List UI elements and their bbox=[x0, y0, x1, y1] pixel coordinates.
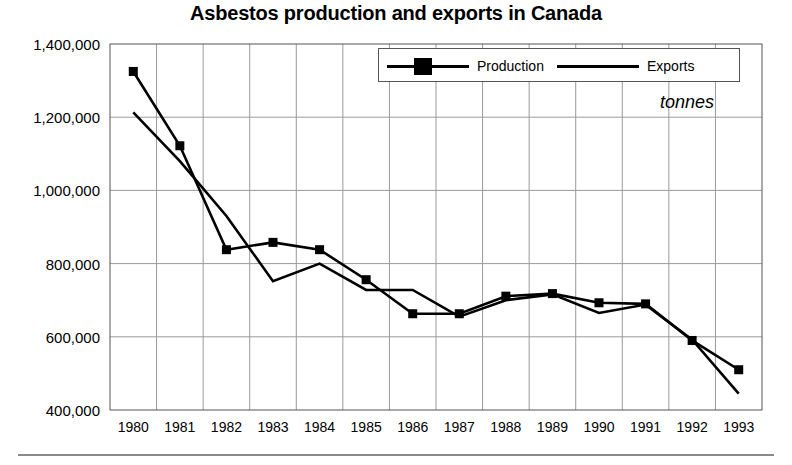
data-point-marker bbox=[734, 365, 743, 374]
data-point-marker bbox=[269, 238, 278, 247]
data-point-marker bbox=[595, 298, 604, 307]
unit-annotation: tonnes bbox=[660, 92, 714, 113]
legend-marker-production-icon bbox=[387, 56, 469, 76]
data-point-marker bbox=[175, 141, 184, 150]
chart-container: Asbestos production and exports in Canad… bbox=[0, 0, 792, 465]
legend-label-exports: Exports bbox=[647, 58, 694, 74]
legend-marker-exports-icon bbox=[557, 56, 639, 76]
data-point-marker bbox=[129, 67, 138, 76]
data-point-marker bbox=[362, 275, 371, 284]
data-point-marker bbox=[408, 309, 417, 318]
chart-legend: Production Exports bbox=[378, 48, 740, 82]
legend-item-exports: Exports bbox=[557, 49, 694, 83]
legend-item-production: Production bbox=[387, 49, 544, 83]
legend-label-production: Production bbox=[477, 58, 544, 74]
data-point-marker bbox=[222, 245, 231, 254]
data-point-marker bbox=[315, 245, 324, 254]
bottom-divider bbox=[18, 454, 774, 456]
